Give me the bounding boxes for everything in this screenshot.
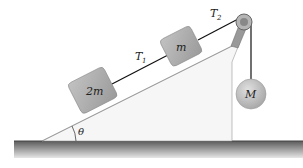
ground (14, 141, 303, 158)
label-t2-sub: 2 (216, 14, 222, 22)
label-t1-sub: 1 (142, 57, 146, 65)
label-theta: θ (78, 126, 84, 137)
label-m: m (176, 41, 186, 54)
label-M: M (244, 88, 257, 101)
incline-pulley-diagram: 2m m M T 1 T 2 θ (0, 0, 303, 168)
diagram-canvas: 2m m M T 1 T 2 θ (0, 0, 303, 168)
label-2m: 2m (85, 85, 103, 98)
